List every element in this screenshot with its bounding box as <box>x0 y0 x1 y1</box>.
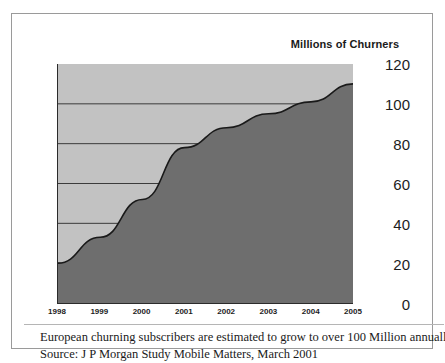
scan-edge-artifact <box>0 0 445 11</box>
caption-line-2: Source: J P Morgan Study Mobile Matters,… <box>40 346 440 363</box>
y-tick-label-120: 120 <box>385 57 410 72</box>
area-chart-svg <box>58 64 353 303</box>
x-tick-label-1999: 1999 <box>90 307 108 316</box>
plot-area <box>57 64 353 304</box>
x-tick-label-2001: 2001 <box>175 307 193 316</box>
x-tick-label-1998: 1998 <box>48 307 66 316</box>
y-tick-label-100: 100 <box>385 96 410 111</box>
caption-divider <box>24 324 444 325</box>
y-tick-label-80: 80 <box>393 136 410 151</box>
area-series-fill <box>58 84 353 303</box>
y-axis-tick-labels: 020406080100120 <box>360 64 424 304</box>
x-tick-label-2005: 2005 <box>344 307 362 316</box>
x-tick-label-2003: 2003 <box>260 307 278 316</box>
x-tick-label-2004: 2004 <box>302 307 320 316</box>
x-tick-label-2000: 2000 <box>133 307 151 316</box>
figure-frame: Millions of Churners 020406080100120 199… <box>11 13 433 349</box>
y-tick-label-60: 60 <box>393 177 410 192</box>
figure-caption: European churning subscribers are estima… <box>40 329 440 363</box>
x-tick-label-2002: 2002 <box>217 307 235 316</box>
chart-title: Millions of Churners <box>252 38 438 50</box>
plot-region <box>57 64 353 304</box>
y-tick-label-40: 40 <box>393 216 410 231</box>
caption-line-1: European churning subscribers are estima… <box>40 329 440 346</box>
y-tick-label-0: 0 <box>402 297 410 312</box>
x-axis-tick-labels: 19981999200020012002200320042005 <box>57 307 353 321</box>
y-tick-label-20: 20 <box>393 257 410 272</box>
